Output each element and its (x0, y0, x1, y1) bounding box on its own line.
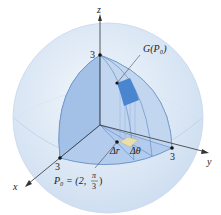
delta-r-label: Δr (109, 145, 120, 156)
point-label: P₀ = (2, (53, 175, 86, 187)
y-axis-label: y (206, 156, 212, 167)
y-tick-3: 3 (170, 151, 175, 162)
image-label: G(P₀) (143, 43, 167, 55)
z-axis-label: z (96, 4, 101, 15)
svg-text:3: 3 (92, 182, 96, 191)
x-axis-label: x (12, 181, 18, 192)
z-tick-3: 3 (90, 49, 95, 60)
x-tick-3: 3 (55, 161, 60, 172)
delta-theta-label: Δθ (129, 145, 141, 156)
sphere-diagram: z y x 3 3 3 G(P₀) Δr Δθ P₀ = (2, π 3 ) (0, 0, 221, 215)
svg-text:): ) (99, 175, 102, 187)
